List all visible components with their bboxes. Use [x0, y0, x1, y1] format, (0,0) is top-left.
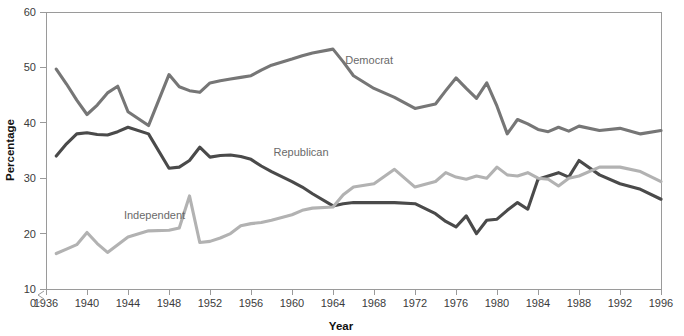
x-tick-label: 1992 [608, 297, 632, 309]
x-tick-label: 1984 [526, 297, 550, 309]
x-tick-label: 1960 [280, 297, 304, 309]
x-tick-label: 1976 [444, 297, 468, 309]
series-label-independent: Independent [124, 209, 185, 221]
series-label-republican: Republican [274, 146, 329, 158]
y-tick-label: 50 [24, 61, 36, 73]
x-tick-label: 1952 [198, 297, 222, 309]
y-tick-label: 20 [24, 228, 36, 240]
x-axis-tick-marks [46, 289, 661, 295]
series-lines-group [56, 49, 661, 253]
y-axis-title: Percentage [4, 119, 16, 181]
x-tick-label: 1940 [75, 297, 99, 309]
y-tick-label: 10 [24, 283, 36, 295]
x-tick-label: 1988 [567, 297, 591, 309]
y-tick-label: 30 [24, 172, 36, 184]
y-tick-label: 40 [24, 117, 36, 129]
x-tick-label: 1980 [485, 297, 509, 309]
x-tick-label: 1936 [34, 297, 58, 309]
series-label-democrat: Democrat [345, 54, 393, 66]
x-tick-label: 1964 [321, 297, 345, 309]
x-tick-label: 1968 [362, 297, 386, 309]
y-tick-label: 60 [24, 6, 36, 18]
x-tick-label: 1944 [116, 297, 140, 309]
x-tick-label: 1948 [157, 297, 181, 309]
chart-canvas: 0102030405060 19361940194419481952195619… [0, 0, 684, 336]
x-tick-label: 1956 [239, 297, 263, 309]
party-identification-line-chart: 0102030405060 19361940194419481952195619… [0, 0, 684, 336]
x-tick-label: 1996 [649, 297, 673, 309]
x-axis-title: Year [329, 320, 354, 332]
x-axis-tick-labels: 1936194019441948195219561960196419681972… [34, 297, 673, 309]
series-inline-labels: DemocratRepublicanIndependent [124, 54, 393, 221]
x-tick-label: 1972 [403, 297, 427, 309]
y-axis-tick-marks [40, 12, 46, 289]
y-axis-tick-labels: 0102030405060 [24, 6, 36, 309]
